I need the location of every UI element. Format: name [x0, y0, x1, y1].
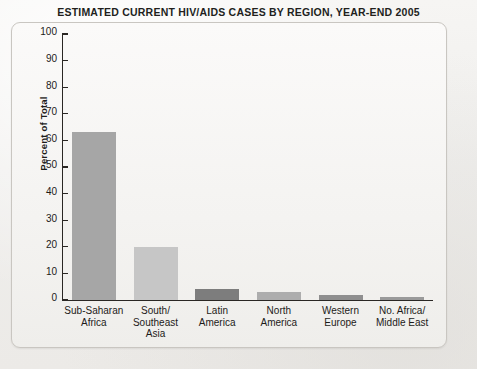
y-axis-tick-label: 0	[27, 292, 57, 303]
chart-figure: ESTIMATED CURRENT HIV/AIDS CASES BY REGI…	[0, 0, 477, 369]
x-axis-line	[62, 300, 433, 301]
y-axis-tick-label: 100	[27, 26, 57, 37]
y-axis-tick-label: 10	[27, 266, 57, 277]
chart-bar[interactable]	[195, 289, 239, 300]
chart-title: ESTIMATED CURRENT HIV/AIDS CASES BY REGI…	[0, 6, 477, 18]
x-axis-category-label: South/ Southeast Asia	[125, 305, 187, 340]
x-axis-category-label: Latin America	[186, 305, 248, 328]
x-axis-category-label: No. Africa/ Middle East	[371, 305, 433, 328]
y-axis-tick-label: 70	[27, 106, 57, 117]
y-axis-tick-label: 60	[27, 133, 57, 144]
y-axis-tick-label: 30	[27, 213, 57, 224]
x-axis-category-label: Sub-Saharan Africa	[63, 305, 125, 328]
chart-bar[interactable]	[319, 295, 363, 300]
y-axis-tick-label: 90	[27, 53, 57, 64]
chart-bar[interactable]	[72, 132, 116, 300]
chart-bar[interactable]	[257, 292, 301, 300]
y-axis-tick-label: 50	[27, 159, 57, 170]
chart-bar[interactable]	[380, 297, 424, 300]
bars-layer	[63, 34, 433, 300]
y-axis-tick-label: 80	[27, 80, 57, 91]
chart-bar[interactable]	[134, 247, 178, 300]
x-axis-category-label: Western Europe	[310, 305, 372, 328]
y-axis-tick-label: 40	[27, 186, 57, 197]
x-axis-category-label: North America	[248, 305, 310, 328]
y-axis-tick-label: 20	[27, 239, 57, 250]
